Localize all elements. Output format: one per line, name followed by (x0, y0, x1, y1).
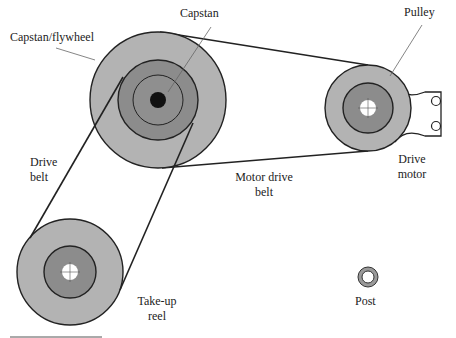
mount-hole-icon (432, 122, 441, 131)
mount-hole-icon (432, 97, 441, 106)
capstan-hub (150, 92, 166, 108)
label-pulley: Pulley (404, 5, 435, 20)
label-drive-belt: Drive belt (30, 155, 57, 185)
tape-drive-diagram: Capstan Capstan/flywheel Pulley Drive be… (0, 0, 456, 338)
diagram-canvas (0, 0, 456, 338)
drive-motor-pulley (325, 65, 411, 151)
take-up-reel (17, 219, 123, 325)
label-post: Post (355, 294, 376, 309)
label-motor-drive-belt: Motor drive belt (226, 170, 302, 200)
label-take-up-reel: Take-up reel (133, 294, 181, 324)
label-capstan-flywheel: Capstan/flywheel (10, 30, 94, 45)
label-drive-motor: Drive motor (391, 152, 433, 182)
post (358, 267, 378, 287)
label-capstan: Capstan (180, 6, 219, 21)
